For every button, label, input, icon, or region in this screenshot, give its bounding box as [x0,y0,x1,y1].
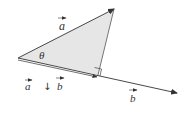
projection-down-arrow-icon: ↓ [43,81,51,92]
angle-theta-label: θ [39,49,45,61]
vector-b-label: b [130,92,136,104]
vector-a-label: a [59,19,65,33]
projection-label-b: b [57,80,63,92]
projection-triangle [18,9,114,75]
vector-projection-diagram: a θ a ↓ b b [0,0,186,113]
projection-label-a: a [25,80,31,92]
